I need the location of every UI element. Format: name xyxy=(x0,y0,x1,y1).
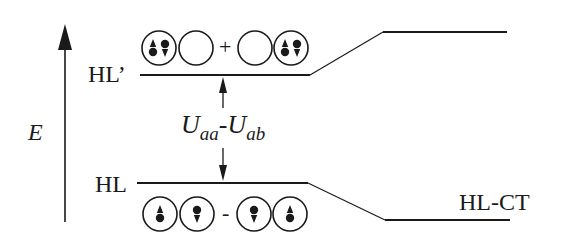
upper-orbital-4 xyxy=(274,31,308,65)
lower-connector-line xyxy=(308,183,385,220)
gap-up-arrow-icon xyxy=(219,77,227,108)
axis-arrowhead-icon xyxy=(58,24,72,50)
upper-connector-line xyxy=(310,32,383,75)
lower-orbital-4 xyxy=(273,197,307,231)
plus-sign: + xyxy=(219,36,231,58)
gap-down-arrow-icon xyxy=(219,148,227,181)
upper-orbital-2 xyxy=(179,31,213,65)
energy-axis-label: E xyxy=(28,120,43,144)
lower-orbital-1 xyxy=(143,197,177,231)
minus-sign: - xyxy=(222,202,229,224)
hl-prime-label: HL’ xyxy=(88,62,126,86)
energy-axis xyxy=(58,24,72,222)
lower-orbital-3 xyxy=(237,197,271,231)
lower-orbital-2 xyxy=(180,197,214,231)
hl-ct-label: HL-CT xyxy=(459,190,530,214)
upper-orbital-3 xyxy=(238,31,272,65)
upper-orbital-1 xyxy=(142,31,176,65)
hl-label: HL xyxy=(95,172,127,196)
gap-label: Uaa-Uab xyxy=(181,112,265,143)
